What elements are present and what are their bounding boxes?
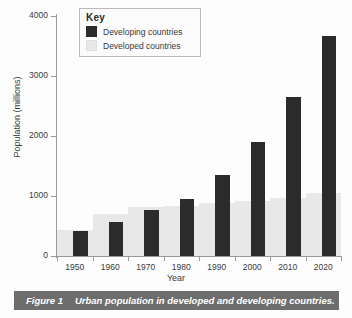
bar-chart: 01000200030004000 Population (millions) …	[0, 0, 352, 285]
x-axis-tick-label: 2010	[270, 262, 306, 272]
x-axis-tick	[341, 256, 342, 261]
x-axis-tick-label: 2020	[306, 262, 342, 272]
y-axis-tick-label: 3000	[0, 70, 48, 80]
x-axis-tick-label: 1970	[128, 262, 164, 272]
x-axis-tick-label: 1990	[199, 262, 235, 272]
bar-developing-1960	[109, 222, 123, 256]
bar-developing-2020	[322, 36, 336, 256]
x-axis-tick	[93, 256, 94, 261]
chart-legend: Key Developing countriesDeveloped countr…	[79, 8, 201, 57]
y-axis-title: Population (millions)	[12, 37, 22, 197]
bar-developing-1970	[144, 210, 158, 256]
bar-group	[199, 16, 235, 256]
bar-developing-1980	[180, 199, 194, 256]
x-axis-tick	[306, 256, 307, 261]
bar-group	[235, 16, 271, 256]
x-axis-tick	[235, 256, 236, 261]
x-axis-tick	[270, 256, 271, 261]
legend-swatch-icon	[86, 40, 97, 51]
x-axis-tick-label: 1950	[57, 262, 93, 272]
bar-group	[270, 16, 306, 256]
legend-title: Key	[86, 12, 195, 23]
y-axis-tick-label: 2000	[0, 130, 48, 140]
figure-caption-number: Figure 1	[26, 295, 63, 306]
x-axis-tick	[57, 256, 58, 261]
figure-caption-bar: Figure 1 Urban population in developed a…	[14, 291, 339, 310]
x-axis-tick	[128, 256, 129, 261]
x-axis-tick	[164, 256, 165, 261]
bar-group	[306, 16, 342, 256]
x-axis-tick-label: 1960	[93, 262, 129, 272]
figure-container: 01000200030004000 Population (millions) …	[0, 0, 352, 318]
x-axis-tick	[199, 256, 200, 261]
x-axis-tick-label: 2000	[235, 262, 271, 272]
y-axis-tick-label: 0	[0, 250, 48, 260]
figure-caption-text: Urban population in developed and develo…	[75, 295, 335, 306]
bar-developing-2010	[286, 97, 300, 256]
legend-swatch-icon	[86, 26, 97, 37]
legend-entries: Developing countriesDeveloped countries	[86, 26, 195, 51]
y-axis-tick-label: 4000	[0, 10, 48, 20]
x-axis-tick-label: 1980	[164, 262, 200, 272]
legend-entry: Developing countries	[86, 26, 195, 37]
y-axis-tick-label: 1000	[0, 190, 48, 200]
legend-label: Developed countries	[103, 41, 181, 51]
bar-developing-2000	[251, 142, 265, 256]
bar-developing-1990	[215, 175, 229, 256]
legend-entry: Developed countries	[86, 40, 195, 51]
legend-label: Developing countries	[103, 27, 182, 37]
x-axis-title: Year	[0, 273, 352, 283]
bar-developing-1950	[73, 231, 87, 256]
